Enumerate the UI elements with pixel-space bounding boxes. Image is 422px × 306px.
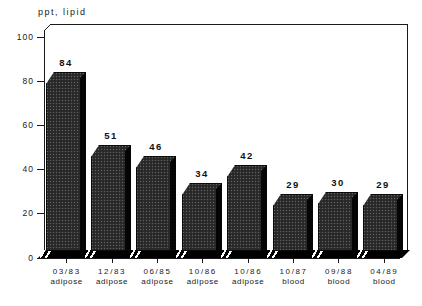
y-tick-label: 80: [10, 77, 34, 86]
bar-value-label: 46: [133, 141, 179, 152]
bar-side-face: [125, 145, 131, 251]
bar-side-face: [170, 156, 176, 251]
bar-side-face: [307, 194, 313, 251]
bar-side-face: [397, 194, 403, 251]
bar-base-hatch: [357, 250, 368, 258]
bar-side-face: [261, 165, 267, 251]
bar-side-face: [352, 192, 358, 251]
y-tick-label: 100: [10, 33, 34, 42]
bar-value-label: 84: [43, 57, 89, 68]
bar-value-label: 30: [315, 177, 361, 188]
bar-side-face: [216, 183, 222, 251]
bar-side-face: [80, 72, 86, 251]
top-left-depth-line: [44, 24, 51, 31]
bar-value-label: 34: [179, 168, 225, 179]
x-label-date: 04/89: [354, 267, 414, 277]
x-label-tissue: blood: [354, 277, 414, 287]
bar-base-hatch: [85, 250, 96, 258]
x-category-label: 04/89blood: [354, 267, 414, 287]
bar-base-hatch: [176, 250, 187, 258]
bar-value-label: 51: [88, 130, 134, 141]
bar-chart: ppt, lipid 8451463442293029 020406080100…: [0, 0, 422, 306]
bar-base-hatch: [312, 250, 323, 258]
y-axis-title: ppt, lipid: [38, 7, 87, 17]
bar-value-label: 42: [224, 150, 270, 161]
bar-value-label: 29: [270, 179, 316, 190]
bar-value-label: 29: [360, 179, 406, 190]
bar-base-hatch: [130, 250, 141, 258]
y-tick-label: 60: [10, 121, 34, 130]
bar-base-hatch: [221, 250, 232, 258]
y-tick-label: 40: [10, 165, 34, 174]
y-tick-label: 20: [10, 209, 34, 218]
bar-base-hatch: [40, 250, 51, 258]
bar-base-hatch: [267, 250, 278, 258]
y-tick-label: 0: [10, 254, 34, 263]
